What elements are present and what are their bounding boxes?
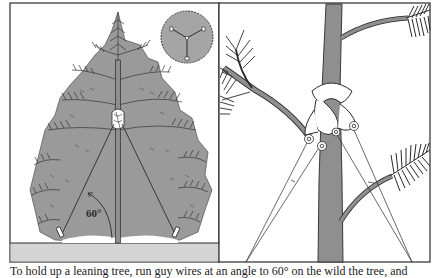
right-panel <box>219 3 430 262</box>
left-panel: 60° <box>10 3 219 262</box>
angle-label: 60° <box>86 207 101 219</box>
collar-knot <box>112 109 124 129</box>
trunk <box>116 60 121 243</box>
ground <box>11 243 219 261</box>
inset-top-view <box>161 11 213 63</box>
figure-caption: To hold up a leaning tree, run guy wires… <box>10 264 440 278</box>
